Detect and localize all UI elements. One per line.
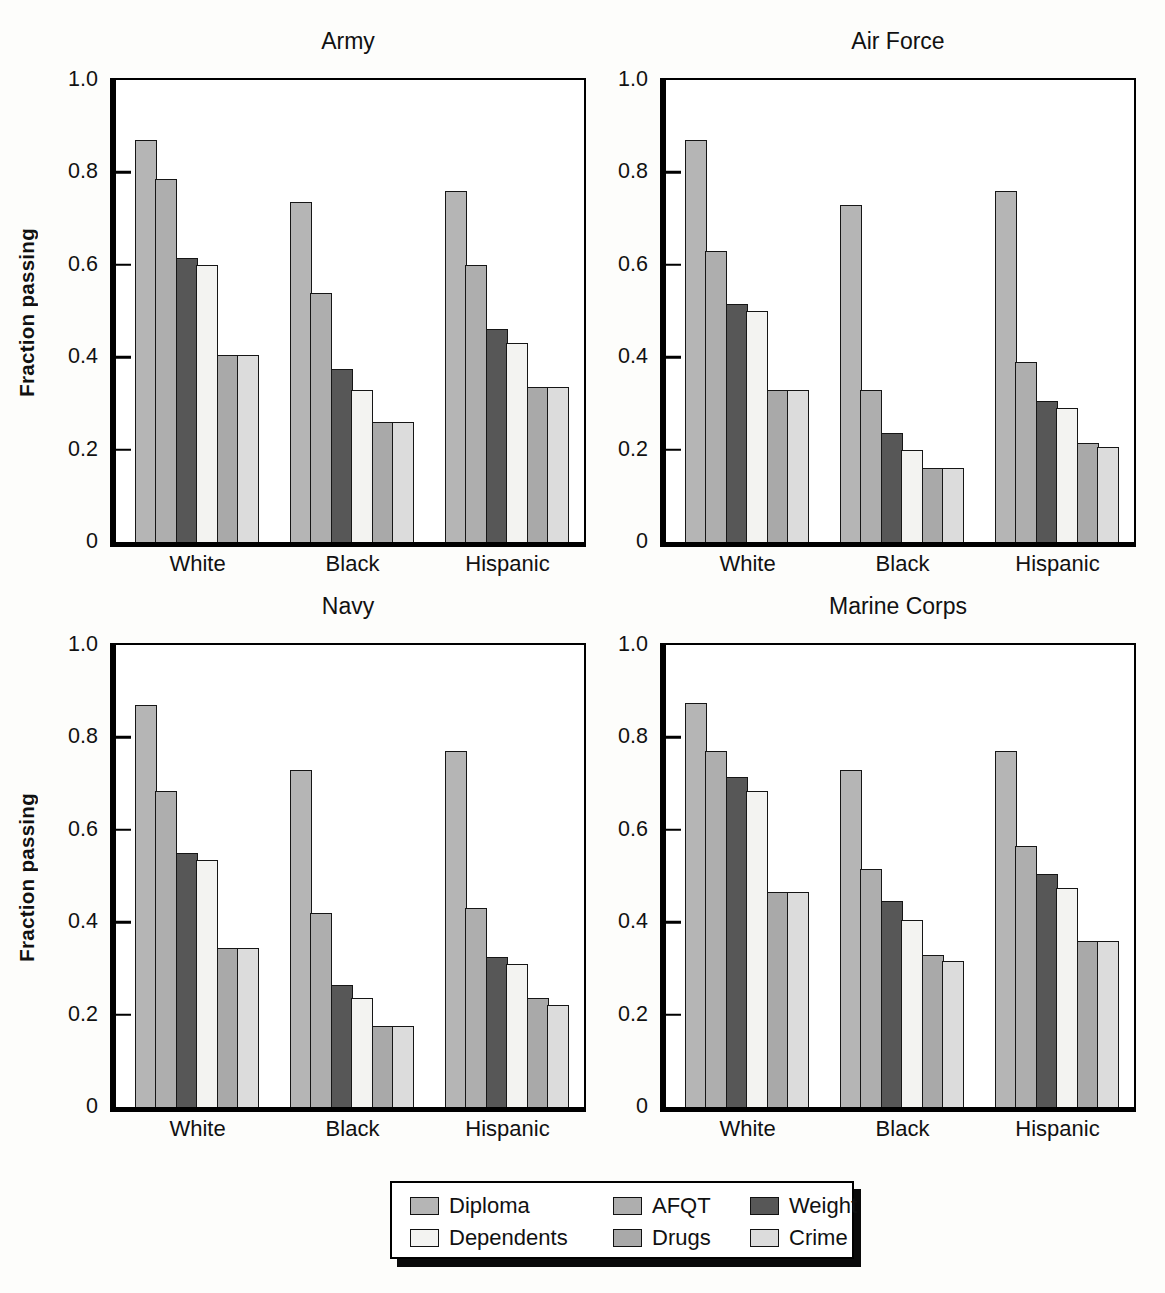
y-tick-label: 0.6 (586, 819, 648, 841)
y-tick-label: 0.4 (586, 346, 648, 368)
bar-crime-white (237, 355, 259, 542)
bar-drugs-hispanic (527, 387, 549, 542)
bar-drugs-hispanic (1077, 443, 1099, 542)
bar-group-white (685, 645, 809, 1107)
weight-swatch (750, 1197, 779, 1215)
bar-afqt-hispanic (1015, 362, 1037, 542)
bar-dependents-white (196, 265, 218, 542)
bar-weight-black (881, 433, 903, 542)
x-category-label: White (685, 1116, 810, 1142)
y-tick-mark (666, 171, 681, 174)
bar-diploma-black (840, 205, 862, 542)
legend-item-drugs: Drugs (613, 1223, 750, 1253)
bar-drugs-white (217, 948, 239, 1107)
bar-diploma-hispanic (445, 191, 467, 542)
y-tick-label: 0 (36, 531, 98, 553)
y-tick-label: 0.8 (36, 727, 98, 749)
bar-dependents-hispanic (1056, 408, 1078, 542)
y-tick-mark (116, 171, 131, 174)
bar-afqt-black (860, 390, 882, 542)
y-tick-label: 0.6 (586, 254, 648, 276)
bar-weight-hispanic (1036, 401, 1058, 542)
y-tick-label: 0 (586, 531, 648, 553)
legend-item-weight: Weight (750, 1191, 857, 1221)
y-tick-label: 0.2 (586, 439, 648, 461)
x-category-label: Hispanic (995, 1116, 1120, 1142)
bar-afqt-white (155, 791, 177, 1107)
bar-crime-black (392, 1026, 414, 1107)
y-tick-label: 0.6 (36, 819, 98, 841)
y-tick-mark (116, 448, 131, 451)
legend-label: Crime (789, 1225, 848, 1251)
bar-afqt-black (310, 293, 332, 542)
legend-label: Diploma (449, 1193, 530, 1219)
y-tick-mark (666, 829, 681, 832)
y-tick-mark (116, 829, 131, 832)
bar-weight-white (176, 258, 198, 542)
bar-drugs-white (767, 390, 789, 542)
chart-title-air-force: Air Force (660, 28, 1136, 55)
bar-group-hispanic (995, 80, 1119, 542)
bar-drugs-black (372, 1026, 394, 1107)
bar-dependents-black (351, 998, 373, 1107)
x-category-label: White (135, 1116, 260, 1142)
y-tick-label: 0.8 (586, 727, 648, 749)
bar-afqt-white (705, 751, 727, 1107)
y-tick-label: 0.8 (586, 162, 648, 184)
bar-diploma-white (135, 705, 157, 1107)
bar-drugs-black (922, 468, 944, 542)
legend-label: Weight (789, 1193, 857, 1219)
bar-afqt-white (155, 179, 177, 542)
bar-group-white (135, 645, 259, 1107)
bar-diploma-black (840, 770, 862, 1107)
y-tick-label: 0 (586, 1096, 648, 1118)
y-tick-mark (116, 1013, 131, 1016)
bar-diploma-hispanic (995, 751, 1017, 1107)
afqt-swatch (613, 1197, 642, 1215)
y-tick-mark (116, 264, 131, 267)
bar-weight-hispanic (486, 329, 508, 542)
bar-afqt-black (860, 869, 882, 1107)
legend-label: Dependents (449, 1225, 568, 1251)
bar-group-hispanic (995, 645, 1119, 1107)
y-axis-label: Fraction passing (8, 78, 46, 547)
bar-drugs-black (372, 422, 394, 542)
y-tick-label: 1.0 (586, 69, 648, 91)
bar-dependents-black (901, 450, 923, 542)
y-tick-label: 1.0 (586, 634, 648, 656)
y-tick-label: 0 (36, 1096, 98, 1118)
bar-dependents-hispanic (506, 964, 528, 1107)
bar-weight-white (176, 853, 198, 1107)
chart-title-army: Army (110, 28, 586, 55)
dependents-swatch (410, 1229, 439, 1247)
chart-panel-army: Army Fraction passing 1.00.80.60.40.20 W… (0, 0, 605, 565)
bar-weight-black (881, 901, 903, 1107)
bar-weight-black (331, 985, 353, 1107)
legend-box: Diploma AFQT Weight Dependents Drugs Cri… (390, 1181, 854, 1259)
legend-item-crime: Crime (750, 1223, 857, 1253)
y-tick-label: 0.2 (36, 439, 98, 461)
bar-drugs-black (922, 955, 944, 1107)
legend-item-afqt: AFQT (613, 1191, 750, 1221)
bar-crime-black (392, 422, 414, 542)
bar-diploma-white (685, 703, 707, 1107)
bar-dependents-white (746, 791, 768, 1107)
y-tick-mark (666, 448, 681, 451)
plot-area-air-force: 1.00.80.60.40.20 (660, 78, 1136, 547)
y-tick-label: 1.0 (36, 634, 98, 656)
y-tick-mark (116, 356, 131, 359)
bar-diploma-hispanic (995, 191, 1017, 542)
x-category-label: Black (290, 1116, 415, 1142)
bar-afqt-black (310, 913, 332, 1107)
y-tick-label: 0.4 (36, 346, 98, 368)
bar-drugs-hispanic (1077, 941, 1099, 1107)
bar-dependents-hispanic (1056, 888, 1078, 1107)
chart-title-marine-corps: Marine Corps (660, 593, 1136, 620)
y-tick-label: 0.4 (36, 911, 98, 933)
bar-diploma-white (685, 140, 707, 542)
bar-crime-black (942, 468, 964, 542)
legend-item-dependents: Dependents (410, 1223, 613, 1253)
y-tick-mark (116, 921, 131, 924)
crime-swatch (750, 1229, 779, 1247)
plot-area-navy: 1.00.80.60.40.20 (110, 643, 586, 1112)
